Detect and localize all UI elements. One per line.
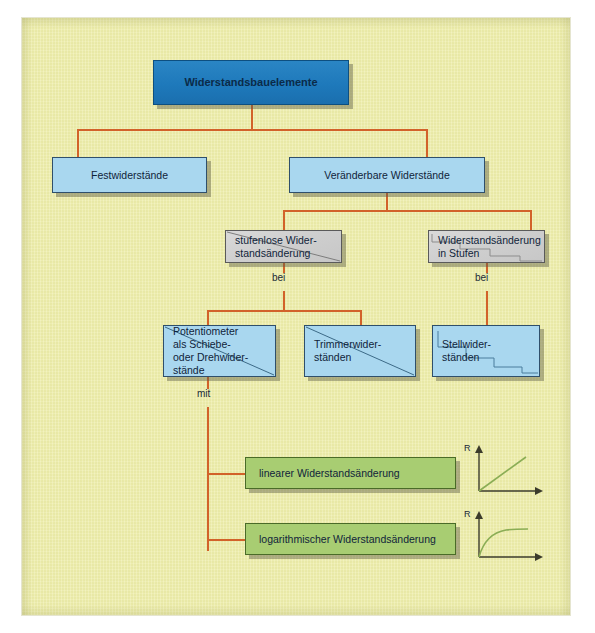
connector-to-veraenderbare: [426, 129, 428, 157]
connector-to-trimmer: [360, 310, 362, 325]
connector-to-stufenlose: [283, 210, 285, 230]
connector-label-mit: mit: [197, 388, 210, 399]
connector-bei-left-down: [283, 291, 285, 311]
node-label: Veränderbare Widerstände: [289, 169, 485, 182]
node-inner: Widerstandsbauelemente: [153, 60, 349, 105]
logarithmic-plot-axis-label: R: [464, 509, 471, 519]
node-inner: stufenlose Wider- standsänderung: [225, 230, 342, 263]
node-trimmerwiderstaenden[interactable]: Trimmerwider- ständen: [304, 325, 416, 377]
node-label: Stellwider- ständen: [432, 338, 501, 364]
node-linearer-widerstandsaenderung[interactable]: linearer Widerstandsänderung: [245, 457, 456, 489]
connector-level4-left-bus: [207, 310, 361, 312]
connector-bei-right-down: [486, 291, 488, 325]
logarithmic-plot: R: [462, 509, 544, 567]
node-label: Festwiderstände: [52, 169, 207, 182]
node-widerstandsaenderung-in-stufen[interactable]: Widerstandsänderung in Stufen: [428, 230, 545, 263]
connector-mit-down: [207, 407, 209, 551]
panel-edge-right: [560, 18, 570, 615]
node-inner: linearer Widerstandsänderung: [245, 457, 456, 489]
connector-to-potentiometer: [207, 310, 209, 325]
diagram-panel: Widerstandsbauelemente Festwiderstände V…: [22, 18, 570, 615]
node-widerstandsbauelemente[interactable]: Widerstandsbauelemente: [153, 60, 349, 105]
linear-plot-svg: [462, 443, 544, 501]
connector-to-festwiderstaende: [77, 129, 79, 157]
panel-edge-bottom: [22, 605, 570, 615]
node-logarithmischer-widerstandsaenderung[interactable]: logarithmischer Widerstandsänderung: [245, 523, 456, 555]
node-stufenlose-widerstandsaenderung[interactable]: stufenlose Wider- standsänderung: [225, 230, 342, 263]
connector-label-bei-right: bei: [475, 272, 488, 283]
diagram-canvas: Widerstandsbauelemente Festwiderstände V…: [0, 0, 595, 633]
connector-to-in-stufen: [530, 210, 532, 230]
node-inner: Potentiometer als Schiebe- oder Drehwide…: [163, 325, 276, 377]
node-label: logarithmischer Widerstandsänderung: [245, 533, 446, 546]
connector-level3-bus: [283, 210, 531, 212]
node-label: Potentiometer als Schiebe- oder Drehwide…: [163, 325, 258, 377]
node-inner: Trimmerwider- ständen: [304, 325, 416, 377]
node-veraenderbare-widerstaende[interactable]: Veränderbare Widerstände: [289, 157, 485, 193]
node-label: Trimmerwider- ständen: [304, 338, 391, 364]
connector-label-bei-left: bei: [272, 272, 285, 283]
connector-to-linear: [207, 473, 245, 475]
node-label: stufenlose Wider- standsänderung: [225, 234, 327, 260]
node-inner: Stellwider- ständen: [432, 325, 540, 377]
linear-plot-axis-label: R: [464, 443, 471, 453]
node-inner: Veränderbare Widerstände: [289, 157, 485, 193]
panel-edge-left: [22, 18, 32, 615]
node-inner: Widerstandsänderung in Stufen: [428, 230, 545, 263]
logarithmic-plot-svg: [462, 509, 544, 567]
node-label: linearer Widerstandsänderung: [245, 467, 410, 480]
connector-level2-bus: [77, 129, 427, 131]
node-inner: logarithmischer Widerstandsänderung: [245, 523, 456, 555]
connector-to-logarithmic: [207, 539, 245, 541]
node-festwiderstaende[interactable]: Festwiderstände: [52, 157, 207, 193]
node-stellwiderstaenden[interactable]: Stellwider- ständen: [432, 325, 540, 377]
node-label: Widerstandsänderung in Stufen: [428, 234, 551, 260]
node-potentiometer[interactable]: Potentiometer als Schiebe- oder Drehwide…: [163, 325, 276, 377]
panel-edge-top: [22, 18, 570, 28]
linear-plot: R: [462, 443, 544, 501]
node-inner: Festwiderstände: [52, 157, 207, 193]
node-label: Widerstandsbauelemente: [153, 76, 349, 89]
